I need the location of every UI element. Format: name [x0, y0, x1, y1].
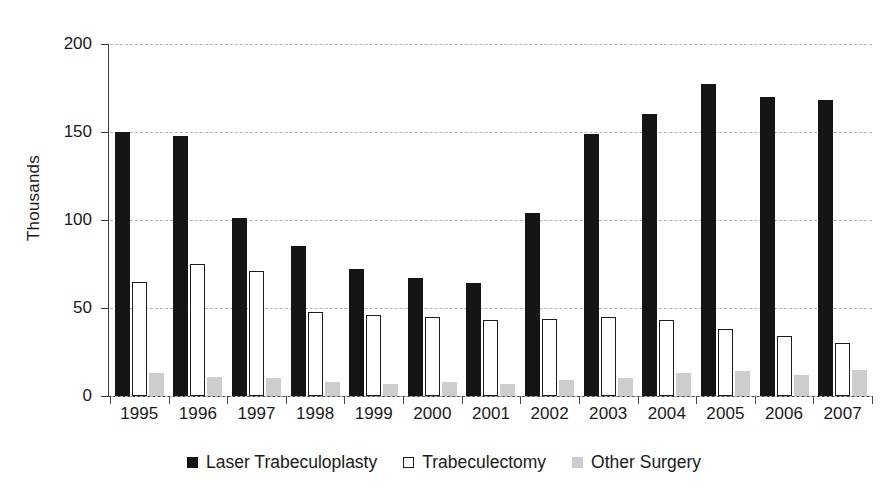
bar	[249, 271, 264, 396]
x-tick	[638, 396, 639, 404]
bar	[794, 375, 809, 396]
legend-swatch-icon	[572, 457, 583, 468]
x-tick	[579, 396, 580, 404]
x-axis-tick-label: 1997	[227, 404, 286, 424]
bar	[308, 312, 323, 396]
x-tick	[227, 396, 228, 404]
x-tick	[520, 396, 521, 404]
gridline-0	[110, 396, 872, 397]
legend-label: Laser Trabeculoplasty	[206, 452, 377, 473]
bar	[190, 264, 205, 396]
x-tick	[872, 396, 873, 404]
bar	[466, 283, 481, 396]
bar	[676, 373, 691, 396]
y-axis-tick-label: 150	[30, 122, 92, 142]
y-axis-title: Thousands	[14, 0, 54, 396]
bar	[542, 319, 557, 396]
legend-swatch-icon	[403, 457, 414, 468]
x-axis-tick-label: 2002	[520, 404, 579, 424]
x-tick	[462, 396, 463, 404]
y-axis-tick-label: 200	[30, 34, 92, 54]
bar-group	[344, 44, 403, 396]
x-tick	[813, 396, 814, 404]
y-axis-tick-label: 50	[30, 298, 92, 318]
y-axis-tick-label: 0	[30, 386, 92, 406]
x-tick	[110, 396, 111, 404]
bar	[366, 315, 381, 396]
x-tick	[344, 396, 345, 404]
legend-label: Trabeculectomy	[422, 452, 546, 473]
x-tick	[755, 396, 756, 404]
x-tick	[169, 396, 170, 404]
bar-group	[110, 44, 169, 396]
x-axis-tick-label: 2004	[638, 404, 697, 424]
x-axis-tick-label: 2001	[462, 404, 521, 424]
bar	[291, 246, 306, 396]
bar	[852, 370, 867, 396]
bar	[442, 382, 457, 396]
bar	[483, 320, 498, 396]
bar	[818, 100, 833, 396]
legend-label: Other Surgery	[591, 452, 701, 473]
x-axis-tick-label: 2007	[813, 404, 872, 424]
bar	[718, 329, 733, 396]
bar	[735, 371, 750, 396]
x-axis-tick-label: 2000	[403, 404, 462, 424]
y-axis-tick-label: 100	[30, 210, 92, 230]
bar-group	[403, 44, 462, 396]
bar	[132, 282, 147, 396]
x-axis-tick-label: 1998	[286, 404, 345, 424]
x-axis-tick-label: 2003	[579, 404, 638, 424]
bar	[425, 317, 440, 396]
bar	[559, 380, 574, 396]
bar	[149, 373, 164, 396]
bar	[349, 269, 364, 396]
bar	[701, 84, 716, 396]
bar	[760, 97, 775, 396]
legend-item[interactable]: Trabeculectomy	[403, 452, 546, 473]
bar	[173, 136, 188, 396]
bar	[232, 218, 247, 396]
bar	[777, 336, 792, 396]
bar-group	[462, 44, 521, 396]
x-tick	[696, 396, 697, 404]
legend-item[interactable]: Laser Trabeculoplasty	[187, 452, 377, 473]
x-tick	[286, 396, 287, 404]
glaucoma-procedures-bar-chart: Thousands 050100150200 19951996199719981…	[0, 0, 888, 495]
bar-group	[579, 44, 638, 396]
bar	[207, 377, 222, 396]
bar	[408, 278, 423, 396]
legend-item[interactable]: Other Surgery	[572, 452, 701, 473]
x-axis-tick-label: 2005	[696, 404, 755, 424]
bar	[266, 378, 281, 396]
bar	[601, 317, 616, 396]
x-axis-tick-label: 2006	[755, 404, 814, 424]
bar-group	[638, 44, 697, 396]
plot-area	[110, 44, 872, 396]
bar	[115, 132, 130, 396]
bar	[525, 213, 540, 396]
bar-group	[755, 44, 814, 396]
bar-group	[169, 44, 228, 396]
bar-group	[286, 44, 345, 396]
bar-group	[813, 44, 872, 396]
legend-swatch-icon	[187, 457, 198, 468]
bar	[618, 378, 633, 396]
bar	[325, 382, 340, 396]
bar-group	[227, 44, 286, 396]
chart-legend: Laser TrabeculoplastyTrabeculectomyOther…	[0, 452, 888, 473]
x-axis-tick-label: 1996	[169, 404, 228, 424]
x-axis-tick-label: 1995	[110, 404, 169, 424]
bar-group	[696, 44, 755, 396]
bar	[642, 114, 657, 396]
y-axis-line	[108, 44, 109, 397]
bar	[584, 134, 599, 396]
x-tick	[403, 396, 404, 404]
bar	[659, 320, 674, 396]
bar-group	[520, 44, 579, 396]
bar	[500, 384, 515, 396]
bar	[383, 384, 398, 396]
x-axis-tick-label: 1999	[344, 404, 403, 424]
bar	[835, 343, 850, 396]
